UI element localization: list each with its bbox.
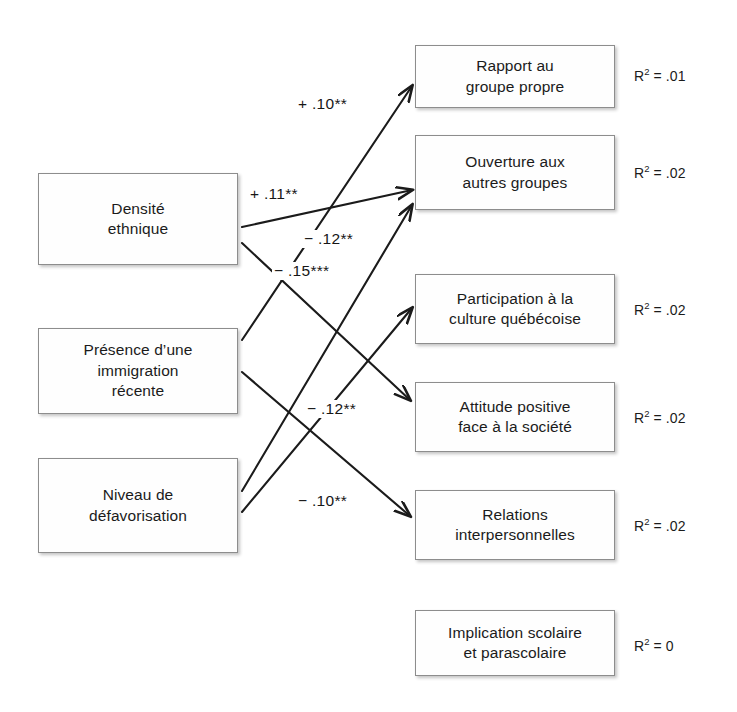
r2-label-implication-scolaire: R2 = 0 xyxy=(634,638,674,654)
predictor-label-niveau-defavorisation: Niveau de défavorisation xyxy=(89,485,187,526)
predictor-label-densite-ethnique: Densité ethnique xyxy=(108,199,168,240)
outcome-label-ouverture-autres-groupes: Ouverture aux autres groupes xyxy=(463,152,568,193)
r2-label-ouverture-autres-groupes: R2 = .02 xyxy=(634,165,686,181)
path-coefficient-defavorisation-to-ouverture: − .15*** xyxy=(272,262,331,280)
r2-value: = .02 xyxy=(650,165,686,181)
r2-label-participation-culture-quebecoise: R2 = .02 xyxy=(634,302,686,318)
r2-value: = .02 xyxy=(650,302,686,318)
outcome-box-ouverture-autres-groupes[interactable]: Ouverture aux autres groupes xyxy=(415,135,615,210)
r2-value: = 0 xyxy=(650,638,674,654)
path-coefficient-immigration-to-rapport: + .10** xyxy=(296,95,349,113)
outcome-label-implication-scolaire: Implication scolaire et parascolaire xyxy=(448,623,582,664)
outcome-label-relations-interpersonnelles: Relations interpersonnelles xyxy=(455,505,575,546)
predictor-label-immigration-recente: Présence d’une immigration récente xyxy=(83,340,192,401)
r2-label-relations-interpersonnelles: R2 = .02 xyxy=(634,518,686,534)
outcome-box-rapport-groupe-propre[interactable]: Rapport au groupe propre xyxy=(415,45,615,108)
outcome-label-attitude-positive-societe: Attitude positive face à la société xyxy=(458,397,572,438)
r2-symbol: R xyxy=(634,302,644,318)
outcome-label-participation-culture-quebecoise: Participation à la culture québécoise xyxy=(449,289,581,330)
r2-label-attitude-positive-societe: R2 = .02 xyxy=(634,410,686,426)
outcome-box-relations-interpersonnelles[interactable]: Relations interpersonnelles xyxy=(415,490,615,560)
path-coefficient-defavorisation-to-participation: − .12** xyxy=(305,400,358,418)
outcome-box-participation-culture-quebecoise[interactable]: Participation à la culture québécoise xyxy=(415,274,615,344)
r2-label-rapport-groupe-propre: R2 = .01 xyxy=(634,68,686,84)
r2-symbol: R xyxy=(634,410,644,426)
path-immigration-to-rapport xyxy=(242,86,412,340)
r2-symbol: R xyxy=(634,638,644,654)
predictor-box-niveau-defavorisation[interactable]: Niveau de défavorisation xyxy=(38,458,238,553)
path-analysis-diagram: Densité ethnique Présence d’une immigrat… xyxy=(0,0,737,712)
r2-symbol: R xyxy=(634,68,644,84)
outcome-box-attitude-positive-societe[interactable]: Attitude positive face à la société xyxy=(415,382,615,452)
predictor-box-densite-ethnique[interactable]: Densité ethnique xyxy=(38,173,238,265)
r2-value: = .02 xyxy=(650,518,686,534)
r2-symbol: R xyxy=(634,165,644,181)
path-coefficient-immigration-to-relations: − .10** xyxy=(296,492,349,510)
r2-value: = .01 xyxy=(650,68,686,84)
outcome-box-implication-scolaire[interactable]: Implication scolaire et parascolaire xyxy=(415,610,615,676)
outcome-label-rapport-groupe-propre: Rapport au groupe propre xyxy=(466,56,565,97)
predictor-box-immigration-recente[interactable]: Présence d’une immigration récente xyxy=(38,328,238,414)
r2-symbol: R xyxy=(634,518,644,534)
r2-value: = .02 xyxy=(650,410,686,426)
path-coefficient-densite-to-ouverture: + .11** xyxy=(248,185,300,203)
path-coefficient-densite-to-attitude: − .12** xyxy=(302,230,355,248)
